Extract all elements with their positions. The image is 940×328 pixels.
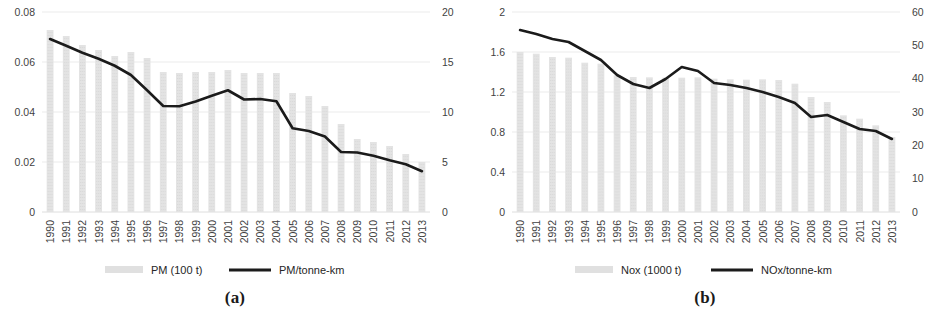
line-series bbox=[50, 39, 422, 171]
right-axis-tick-label: 15 bbox=[442, 56, 454, 68]
chart-a-svg: 00.020.040.060.0805101520199019911992199… bbox=[0, 0, 470, 300]
bar-group bbox=[386, 146, 393, 212]
bar bbox=[872, 125, 879, 212]
line-series bbox=[520, 30, 892, 139]
bar-group bbox=[95, 50, 102, 212]
right-axis-tick-label: 0 bbox=[442, 206, 448, 218]
x-axis-tick-label: 2006 bbox=[303, 220, 315, 244]
legend-label-bar: PM (100 t) bbox=[151, 264, 202, 276]
chart-b-svg: 00.40.81.21.6201020304050601990199119921… bbox=[470, 0, 940, 300]
bar-group bbox=[678, 78, 685, 212]
x-axis-tick-label: 2003 bbox=[254, 220, 266, 244]
left-axis-tick-label: 0.8 bbox=[490, 126, 505, 138]
x-axis-tick-label: 2012 bbox=[400, 220, 412, 244]
bar-group bbox=[840, 115, 847, 212]
x-axis-tick-label: 2005 bbox=[757, 220, 769, 244]
left-axis-tick-label: 0.4 bbox=[490, 166, 505, 178]
x-axis-tick-label: 2010 bbox=[837, 220, 849, 244]
x-axis-tick-label: 2007 bbox=[319, 220, 331, 244]
left-axis-tick-label: 2 bbox=[499, 6, 505, 18]
x-axis-tick-label: 2010 bbox=[367, 220, 379, 244]
x-axis-tick-label: 2011 bbox=[384, 220, 396, 243]
bar-group bbox=[241, 73, 248, 212]
right-axis-tick-label: 30 bbox=[912, 106, 924, 118]
bar-group bbox=[614, 75, 621, 212]
x-axis-tick-label: 2012 bbox=[870, 220, 882, 244]
x-axis-tick-label: 1997 bbox=[157, 220, 169, 244]
bar-group bbox=[517, 52, 524, 212]
bar-group bbox=[47, 30, 54, 212]
x-axis-tick-label: 1990 bbox=[514, 220, 526, 244]
bar-group bbox=[695, 77, 702, 212]
x-axis-tick-label: 2002 bbox=[708, 220, 720, 244]
legend: PM (100 t)PM/tonne-km bbox=[105, 264, 344, 276]
x-axis-tick-label: 2004 bbox=[270, 220, 282, 244]
bar-group bbox=[872, 125, 879, 212]
x-axis-tick-label: 1991 bbox=[60, 220, 72, 244]
bar bbox=[759, 79, 766, 212]
bar bbox=[743, 80, 750, 212]
left-axis-tick-label: 0.04 bbox=[15, 106, 36, 118]
left-axis-tick-label: 0.02 bbox=[15, 156, 36, 168]
figure-container: 00.020.040.060.0805101520199019911992199… bbox=[0, 0, 940, 328]
x-axis-tick-label: 1991 bbox=[530, 220, 542, 244]
x-axis-tick-label: 2000 bbox=[206, 220, 218, 244]
bar bbox=[824, 102, 831, 212]
left-axis-tick-label: 0 bbox=[499, 206, 505, 218]
x-axis-tick-label: 2011 bbox=[854, 220, 866, 243]
x-axis-tick-label: 2009 bbox=[821, 220, 833, 244]
right-axis-tick-label: 50 bbox=[912, 39, 924, 51]
bar-group bbox=[289, 93, 296, 212]
bar-group bbox=[305, 96, 312, 212]
legend-bar-swatch-icon bbox=[575, 266, 613, 273]
chart-panel-b: 00.40.81.21.6201020304050601990199119921… bbox=[470, 0, 940, 328]
x-axis-tick-label: 1995 bbox=[595, 220, 607, 244]
bar-group bbox=[257, 73, 264, 212]
bar-group bbox=[856, 119, 863, 212]
x-axis-tick-label: 2009 bbox=[351, 220, 363, 244]
x-axis-tick-label: 1999 bbox=[190, 220, 202, 244]
bar-group bbox=[775, 80, 782, 212]
left-axis-tick-label: 0.06 bbox=[15, 56, 36, 68]
panel-a-caption: (a) bbox=[0, 288, 470, 308]
right-axis-tick-label: 0 bbox=[912, 206, 918, 218]
x-axis-tick-label: 2000 bbox=[676, 220, 688, 244]
legend-bar-swatch-icon bbox=[105, 266, 143, 273]
bar-group bbox=[176, 73, 183, 212]
x-axis-tick-label: 1994 bbox=[579, 220, 591, 244]
x-axis-tick-label: 2008 bbox=[335, 220, 347, 244]
left-axis-tick-label: 1.2 bbox=[490, 86, 505, 98]
chart-a-plot: 00.020.040.060.0805101520199019911992199… bbox=[0, 0, 470, 300]
x-axis-tick-label: 1992 bbox=[76, 220, 88, 244]
x-axis-tick-label: 1993 bbox=[93, 220, 105, 244]
x-axis-tick-label: 2013 bbox=[886, 220, 898, 244]
bar-group bbox=[354, 139, 361, 212]
left-axis-tick-label: 0.08 bbox=[15, 6, 36, 18]
bar-group bbox=[63, 36, 70, 212]
right-axis-tick-label: 40 bbox=[912, 72, 924, 84]
bar bbox=[47, 30, 54, 212]
right-axis-tick-label: 20 bbox=[912, 139, 924, 151]
legend-label-bar: Nox (1000 t) bbox=[621, 264, 682, 276]
x-axis-tick-label: 2006 bbox=[773, 220, 785, 244]
chart-b-plot: 00.40.81.21.6201020304050601990199119921… bbox=[470, 0, 940, 300]
x-axis-tick-label: 2001 bbox=[692, 220, 704, 244]
x-axis-tick-label: 1998 bbox=[173, 220, 185, 244]
bar-group bbox=[273, 73, 280, 212]
x-axis-tick-label: 1990 bbox=[44, 220, 56, 244]
legend-label-line: PM/tonne-km bbox=[279, 264, 344, 276]
bar-group bbox=[581, 63, 588, 212]
x-axis-tick-label: 1997 bbox=[627, 220, 639, 244]
right-axis-tick-label: 10 bbox=[912, 172, 924, 184]
bar-group bbox=[630, 77, 637, 212]
bar-group bbox=[565, 58, 572, 212]
bar bbox=[727, 79, 734, 212]
bar-group bbox=[711, 79, 718, 212]
x-axis-tick-label: 2004 bbox=[740, 220, 752, 244]
x-axis-tick-label: 1993 bbox=[563, 220, 575, 244]
bar-group bbox=[192, 72, 199, 212]
x-axis-tick-label: 1998 bbox=[643, 220, 655, 244]
right-axis-tick-label: 20 bbox=[442, 6, 454, 18]
x-axis-tick-label: 2008 bbox=[805, 220, 817, 244]
bar-group bbox=[824, 102, 831, 212]
